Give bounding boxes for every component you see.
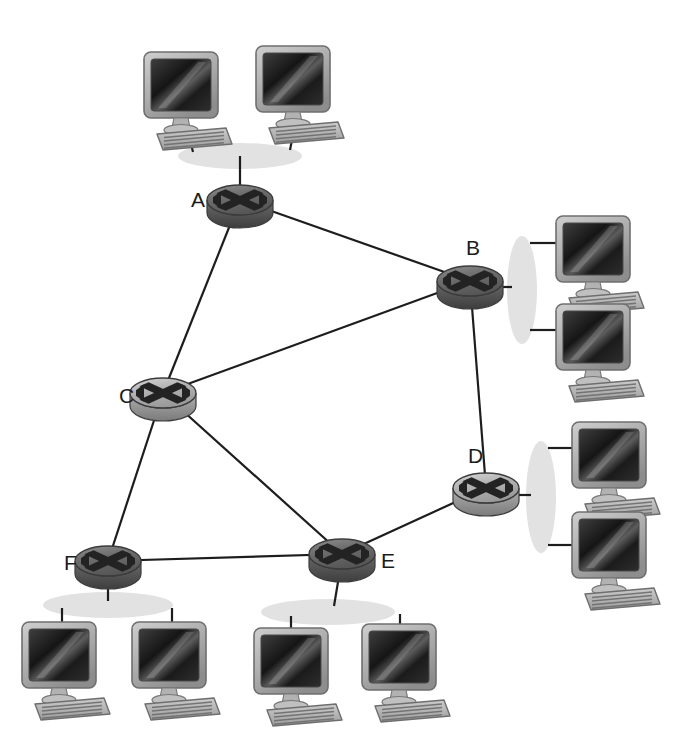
routers-layer bbox=[75, 185, 519, 589]
computer-pc-a-2 bbox=[256, 46, 344, 144]
network-topology-canvas: ABCDEF bbox=[0, 0, 678, 754]
router-label-E: E bbox=[381, 549, 395, 572]
computer-pc-f-1 bbox=[22, 622, 110, 720]
router-label-A: A bbox=[191, 188, 205, 211]
computer-pc-f-2 bbox=[132, 622, 220, 720]
router-B[interactable] bbox=[437, 266, 503, 309]
router-labels-layer: ABCDEF bbox=[64, 188, 483, 574]
lan-segment-ellipse-lan-e bbox=[261, 599, 395, 625]
router-label-F: F bbox=[64, 551, 77, 574]
lan-segment-ellipse-lan-d bbox=[526, 441, 556, 553]
computer-pc-e-1 bbox=[254, 628, 342, 726]
lan-segment-ellipse-lan-b bbox=[507, 236, 537, 344]
link-c-b bbox=[163, 281, 470, 393]
router-A[interactable] bbox=[207, 185, 273, 228]
computer-pc-a-1 bbox=[144, 52, 232, 150]
router-E[interactable] bbox=[309, 539, 375, 582]
router-label-D: D bbox=[468, 444, 483, 467]
computer-pc-b-1 bbox=[556, 216, 644, 314]
network-diagram: ABCDEF bbox=[0, 0, 678, 754]
link-f-e bbox=[108, 554, 342, 561]
router-label-B: B bbox=[466, 236, 480, 259]
computer-pc-d-2 bbox=[572, 512, 660, 610]
computer-pc-b-2 bbox=[556, 304, 644, 402]
computer-pc-d-1 bbox=[572, 422, 660, 520]
computer-pc-e-2 bbox=[362, 624, 450, 722]
link-a-c bbox=[163, 200, 240, 393]
router-D[interactable] bbox=[453, 473, 519, 516]
router-label-C: C bbox=[119, 384, 134, 407]
router-C[interactable] bbox=[130, 378, 196, 421]
router-F[interactable] bbox=[75, 546, 141, 589]
link-a-b bbox=[240, 200, 470, 281]
link-c-e bbox=[163, 393, 342, 554]
